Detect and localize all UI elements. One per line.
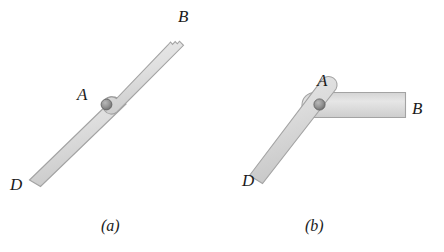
pin-joint-a [101, 99, 112, 110]
bar-da-body-b [250, 77, 338, 184]
caption-panel-a: (a) [101, 218, 120, 234]
panel-a-diagram [0, 0, 222, 252]
label-point-a-panel-a: A [77, 86, 87, 103]
pin-joint-b [314, 99, 325, 110]
panel-a: B A D (a) [0, 0, 222, 252]
bar-ab-body-a [103, 41, 184, 114]
bar-da-b [250, 77, 338, 184]
caption-panel-b: (b) [305, 218, 324, 234]
label-point-d-panel-b: D [242, 172, 254, 189]
panel-b-diagram [222, 0, 444, 252]
label-point-b-panel-a: B [178, 8, 188, 25]
bar-ab-a [103, 41, 184, 114]
label-point-d-panel-a: D [10, 176, 22, 193]
figure-root: B A D (a) [0, 0, 444, 252]
label-point-a-panel-b: A [317, 72, 327, 89]
label-point-b-panel-b: B [412, 100, 422, 117]
panel-b: A B D (b) [222, 0, 444, 252]
